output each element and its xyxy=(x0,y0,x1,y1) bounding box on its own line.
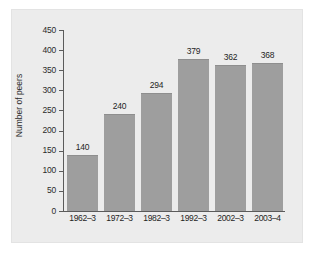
y-axis-tick-label: 50 xyxy=(16,186,56,195)
y-axis-tick-label: 400 xyxy=(16,46,56,55)
y-axis-tick-label: 200 xyxy=(16,126,56,135)
bar-value-label: 240 xyxy=(100,102,140,111)
y-axis-tick-label: 250 xyxy=(16,106,56,115)
y-axis-tick xyxy=(59,30,64,31)
bar xyxy=(104,114,135,211)
bar-value-label: 368 xyxy=(248,51,288,60)
figure: Number of peers 050100150200250300350400… xyxy=(0,0,314,258)
y-axis-line xyxy=(63,30,64,212)
y-axis-tick xyxy=(59,50,64,51)
bar-value-label: 379 xyxy=(174,47,214,56)
y-axis-tick-label: 150 xyxy=(16,146,56,155)
y-axis-tick xyxy=(59,131,64,132)
x-axis-tick-label: 2003–4 xyxy=(246,214,290,223)
x-axis-line xyxy=(63,211,285,212)
bar xyxy=(178,59,209,211)
y-axis-tick-label: 0 xyxy=(16,207,56,216)
bar xyxy=(141,93,172,211)
bar-value-label: 140 xyxy=(63,143,103,152)
plot-area: Number of peers 050100150200250300350400… xyxy=(0,0,314,258)
bar-value-label: 362 xyxy=(211,53,251,62)
y-axis-tick-label: 450 xyxy=(16,26,56,35)
bar xyxy=(252,63,283,211)
y-axis-tick xyxy=(59,90,64,91)
bar xyxy=(67,155,98,211)
y-axis-tick xyxy=(59,70,64,71)
bar xyxy=(215,65,246,211)
y-axis-tick xyxy=(59,110,64,111)
y-axis-tick xyxy=(59,211,64,212)
y-axis-tick xyxy=(59,191,64,192)
y-axis-tick-label: 100 xyxy=(16,166,56,175)
y-axis-tick-label: 350 xyxy=(16,66,56,75)
bar-value-label: 294 xyxy=(137,81,177,90)
y-axis-tick-label: 300 xyxy=(16,86,56,95)
y-axis-tick xyxy=(59,171,64,172)
